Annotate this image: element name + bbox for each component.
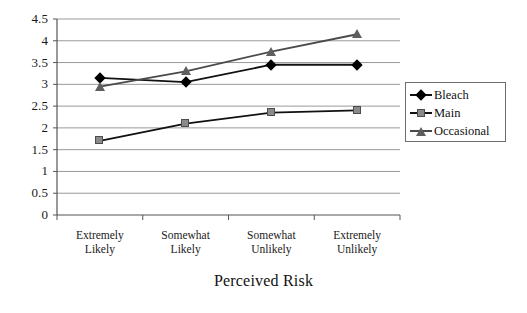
y-tick-label: 1.5 (4, 143, 48, 156)
legend-label: Bleach (432, 89, 469, 102)
legend: Bleach Main Occasional (405, 82, 506, 142)
x-axis-title: Perceived Risk (0, 272, 527, 290)
x-tick-label: Extremely Unlikely (314, 228, 400, 256)
y-tick-label: 0.5 (4, 186, 48, 199)
y-tick-label: 2 (4, 121, 48, 134)
legend-key-diamond-icon (410, 88, 432, 102)
y-tick-label: 3.5 (4, 56, 48, 69)
data-point-marker (353, 106, 361, 114)
y-tick-label: 4 (4, 34, 48, 47)
data-point-marker (181, 66, 191, 75)
data-point-marker (95, 82, 105, 91)
data-point-marker (266, 47, 276, 56)
legend-key-triangle-icon (410, 124, 432, 138)
legend-label: Occasional (432, 125, 490, 138)
y-tick-label: 2.5 (4, 99, 48, 112)
legend-key-square-icon (410, 106, 432, 120)
data-point-marker (352, 29, 362, 38)
data-point-marker (180, 76, 191, 87)
x-tick-label: Somewhat Unlikely (229, 228, 315, 256)
y-tick-label: 0 (4, 208, 48, 221)
x-tick-label: Somewhat Likely (143, 228, 229, 256)
line-chart: 4.543.532.521.510.50 Extremely LikelySom… (0, 0, 527, 313)
legend-label: Main (432, 107, 460, 120)
y-tick-label: 4.5 (4, 12, 48, 25)
data-point-marker (266, 59, 277, 70)
x-tick-label: Extremely Likely (57, 228, 143, 256)
y-tick-label: 1 (4, 164, 48, 177)
data-point-marker (95, 136, 103, 144)
data-point-marker (351, 59, 362, 70)
legend-item-bleach: Bleach (406, 86, 505, 104)
y-tick-label: 3 (4, 77, 48, 90)
legend-item-main: Main (406, 104, 505, 122)
series-markers (0, 0, 527, 313)
data-point-marker (267, 108, 275, 116)
legend-item-occasional: Occasional (406, 122, 505, 140)
data-point-marker (181, 119, 189, 127)
